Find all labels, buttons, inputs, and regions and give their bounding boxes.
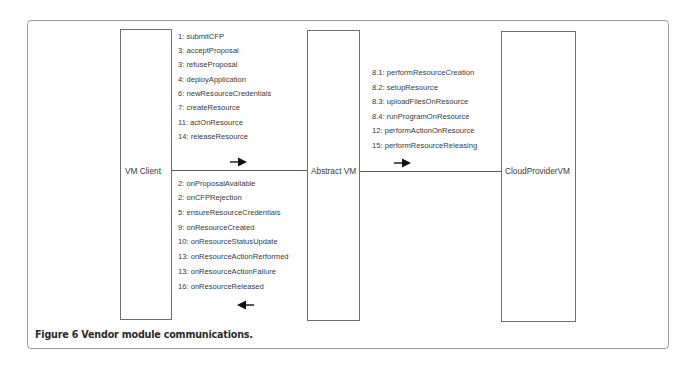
message: 3: refuseProposal xyxy=(178,60,238,70)
cloud-provider-vm-box xyxy=(501,31,576,322)
figure-caption: Figure 6 Vendor module communications. xyxy=(35,329,253,340)
arrow-right-icon xyxy=(230,157,248,167)
client-abstract-connector xyxy=(172,170,307,171)
message: 8.1: performResourceCreation xyxy=(372,68,474,78)
arrow-left-icon xyxy=(236,300,254,310)
abstract-vm-label: Abstract VM xyxy=(311,166,356,176)
arrow-right-icon xyxy=(394,158,412,168)
message: 13: onResourceActionRerformed xyxy=(178,252,289,262)
message: 6: newResourceCredentials xyxy=(178,89,271,99)
message: 1: submitCFP xyxy=(178,32,224,42)
message: 3: acceptProposal xyxy=(178,46,239,56)
message: 12: performActionOnResource xyxy=(372,126,475,136)
message: 8.2: setupResource xyxy=(372,83,438,93)
message: 2: onCFPRejection xyxy=(178,193,242,203)
message: 9: onResourceCreated xyxy=(178,223,254,233)
message: 4: deployApplication xyxy=(178,75,246,85)
message: 7: createResource xyxy=(178,103,240,113)
message: 5: ensureResourceCredentials xyxy=(178,208,281,218)
vm-client-label: VM Client xyxy=(125,166,161,176)
cloud-provider-vm-label: CloudProviderVM xyxy=(505,166,570,176)
message: 10: onResourceStatusUpdate xyxy=(178,237,278,247)
message: 14: releaseResource xyxy=(178,132,248,142)
message: 8.4: runProgramOnResource xyxy=(372,112,470,122)
message: 15: performResourceReleasing xyxy=(372,141,477,151)
message: 2: onProposalAvailable xyxy=(178,179,256,189)
abstract-cloud-connector xyxy=(360,171,501,172)
message: 8.3: uploadFilesOnResource xyxy=(372,97,468,107)
message: 13: onResourceActionFailure xyxy=(178,267,276,277)
message: 11: actOnResource xyxy=(178,118,243,128)
message: 16: onResourceReleased xyxy=(178,282,264,292)
